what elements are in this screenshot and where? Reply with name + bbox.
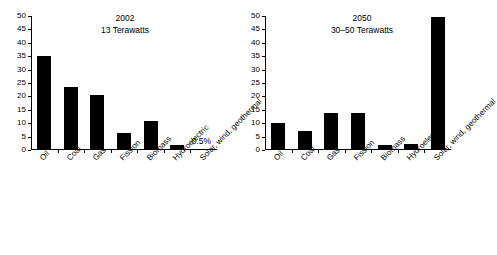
y-tick-0 (262, 150, 265, 151)
plot-area-2050: 05101520253035404550 (265, 16, 451, 150)
x-tick-2 (318, 150, 319, 153)
bar-series-2002 (31, 16, 217, 150)
chart-panel-2050: 2050 30–50 Terawatts 0510152025303540455… (234, 0, 468, 255)
x-tick-1 (58, 150, 59, 153)
x-tick-4 (137, 150, 138, 153)
bar-gas (90, 95, 104, 150)
y-tick-label-25: 25 (17, 79, 26, 87)
x-label-oil: Oil (272, 149, 285, 162)
x-label-oil: Oil (38, 149, 51, 162)
y-tick-label-40: 40 (17, 39, 26, 47)
y-tick-label-0: 0 (22, 146, 26, 154)
x-tick-4 (371, 150, 372, 153)
y-tick-label-35: 35 (251, 52, 260, 60)
y-tick-label-30: 30 (17, 66, 26, 74)
x-tick-6 (190, 150, 191, 153)
y-tick-label-5: 5 (256, 133, 260, 141)
y-tick-label-5: 5 (22, 133, 26, 141)
x-tick-6 (424, 150, 425, 153)
x-tick-3 (111, 150, 112, 153)
bar-series-2050 (265, 16, 451, 150)
bar-oil (271, 123, 285, 150)
x-tick-5 (164, 150, 165, 153)
chart-panel-2002: 2002 13 Terawatts 05101520253035404550 0… (0, 0, 234, 255)
y-tick-label-40: 40 (251, 39, 260, 47)
y-tick-label-0: 0 (256, 146, 260, 154)
x-tick-5 (398, 150, 399, 153)
x-axis-labels-2050: OilCoalGasFissionBiomassHydroelectricSol… (265, 154, 465, 254)
y-tick-label-50: 50 (17, 12, 26, 20)
y-tick-label-20: 20 (17, 92, 26, 100)
bar-oil (37, 56, 51, 150)
x-axis-labels-2002: OilCoalGasFissionBiomassHydroelectricSol… (31, 154, 231, 254)
y-tick-label-20: 20 (251, 92, 260, 100)
y-tick-label-10: 10 (251, 119, 260, 127)
x-tick-3 (345, 150, 346, 153)
y-tick-label-45: 45 (17, 25, 26, 33)
bar-gas (324, 113, 338, 150)
plot-area-2002: 05101520253035404550 (31, 16, 217, 150)
y-tick-label-50: 50 (251, 12, 260, 20)
bar-coal (64, 87, 78, 150)
y-tick-label-25: 25 (251, 79, 260, 87)
y-tick-label-15: 15 (17, 106, 26, 114)
y-tick-label-30: 30 (251, 66, 260, 74)
y-tick-label-45: 45 (251, 25, 260, 33)
x-tick-1 (292, 150, 293, 153)
x-tick-2 (84, 150, 85, 153)
y-tick-label-35: 35 (17, 52, 26, 60)
y-tick-label-10: 10 (17, 119, 26, 127)
y-tick-label-15: 15 (251, 106, 260, 114)
y-tick-0 (28, 150, 31, 151)
